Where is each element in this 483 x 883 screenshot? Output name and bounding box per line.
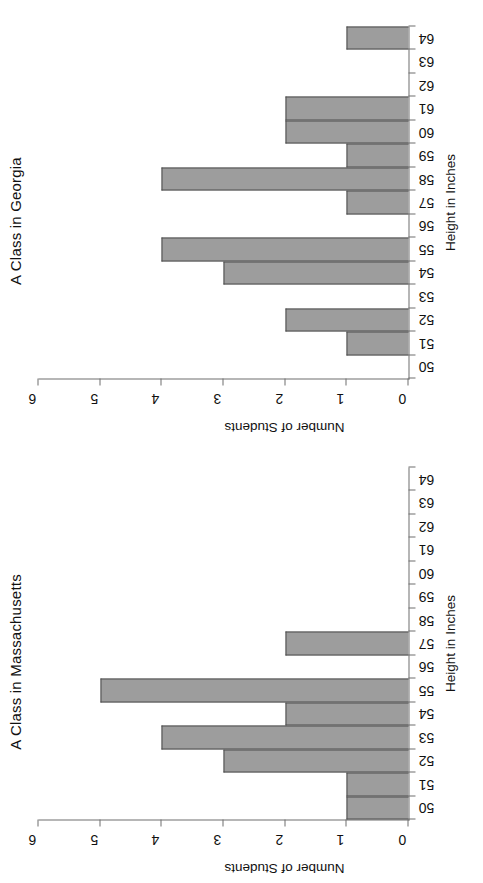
bar-slot [38,355,408,378]
category-axis-label: 59 [418,588,434,604]
category-axis-tick [408,213,415,214]
value-axis-title-massachusetts: Number of Students [224,861,344,876]
category-axis-label: 59 [418,147,434,163]
category-axis-label: 63 [418,53,434,69]
category-axis-tick [408,189,415,190]
category-axis-label: 52 [418,752,434,768]
value-axis-label: 3 [213,831,233,847]
bar [346,190,408,213]
bar-slot [38,514,408,537]
value-axis-tick [284,819,285,826]
value-axis-tick [345,378,346,385]
category-axis-tick [408,330,415,331]
value-axis-label: 6 [28,390,48,406]
value-axis-tick [222,819,223,826]
category-axis-tick [408,607,415,608]
category-axis-label: 56 [418,217,434,233]
value-axis-tick [37,819,38,826]
bar-group-massachusetts [38,467,408,819]
value-axis-label: 4 [151,831,171,847]
bar [346,331,408,354]
category-axis-title-georgia: Height in Inches [442,26,457,378]
category-axis-tick [408,701,415,702]
bar-slot [38,678,408,701]
category-axis-tick [408,48,415,49]
value-axis-tick [160,819,161,826]
bar-slot [38,190,408,213]
bar-slot [38,490,408,513]
bar-slot [38,284,408,307]
bar [346,26,408,49]
category-axis-massachusetts: Height in Inches 50515253545556575859606… [408,467,468,819]
category-axis-tick [408,95,415,96]
category-axis-tick [408,25,415,26]
value-axis-tick [37,378,38,385]
value-axis-label: 3 [213,390,233,406]
bar [346,772,408,795]
value-axis-tick [160,378,161,385]
bar [223,261,408,284]
category-axis-georgia: Height in Inches 50515253545556575859606… [408,26,468,378]
value-axis-title-georgia: Number of Students [224,420,344,435]
category-axis-tick [408,795,415,796]
category-axis-label: 51 [418,335,434,351]
bar [161,725,408,748]
bar-slot [38,120,408,143]
category-axis-tick [408,748,415,749]
rotation-wrapper: A Class in Massachusetts Number of Stude… [0,441,483,882]
category-axis-tick [408,283,415,284]
category-axis-tick [408,166,415,167]
bar [346,143,408,166]
bar-slot [38,772,408,795]
bar-slot [38,584,408,607]
value-axis-tick [284,378,285,385]
category-axis-tick [408,771,415,772]
bar [161,237,408,260]
category-axis-label: 53 [418,288,434,304]
value-axis-tick [345,819,346,826]
category-axis-label: 52 [418,311,434,327]
bar-slot [38,73,408,96]
category-axis-tick [408,377,415,378]
value-axis-label: 5 [90,831,110,847]
category-axis-label: 54 [418,264,434,280]
bar [223,749,408,772]
category-axis-label: 55 [418,682,434,698]
category-axis-tick [408,818,415,819]
bar [100,678,408,701]
bar-slot [38,725,408,748]
chart-massachusetts: A Class in Massachusetts Number of Stude… [0,441,483,882]
category-axis-tick [408,260,415,261]
value-axis-tick [407,378,408,385]
histogram-page: { "page": { "title": "Two Class Height H… [0,0,483,883]
bar-slot [38,96,408,119]
bar-slot [38,537,408,560]
bar-slot [38,167,408,190]
bar-slot [38,261,408,284]
bar-slot [38,308,408,331]
bar-slot [38,331,408,354]
chart-title-georgia: A Class in Georgia [6,0,23,441]
category-axis-label: 62 [418,77,434,93]
value-axis-tick [407,819,408,826]
chart-panel-massachusetts: A Class in Massachusetts Number of Stude… [0,441,483,882]
category-axis-tick [408,677,415,678]
category-axis-label: 63 [418,494,434,510]
bar-slot [38,608,408,631]
category-axis-label: 64 [418,30,434,46]
category-axis-tick [408,307,415,308]
value-axis-tick [99,378,100,385]
category-axis-tick [408,583,415,584]
category-axis-tick [408,724,415,725]
chart-georgia: A Class in Georgia Number of Students 01… [0,0,483,441]
bar-slot [38,49,408,72]
bar [285,96,408,119]
category-axis-label: 60 [418,565,434,581]
chart-title-massachusetts: A Class in Massachusetts [6,441,23,882]
category-axis-label: 50 [418,358,434,374]
bar [285,308,408,331]
category-axis-label: 61 [418,541,434,557]
category-axis-title-massachusetts: Height in Inches [442,467,457,819]
category-axis-tick [408,630,415,631]
bar-slot [38,237,408,260]
